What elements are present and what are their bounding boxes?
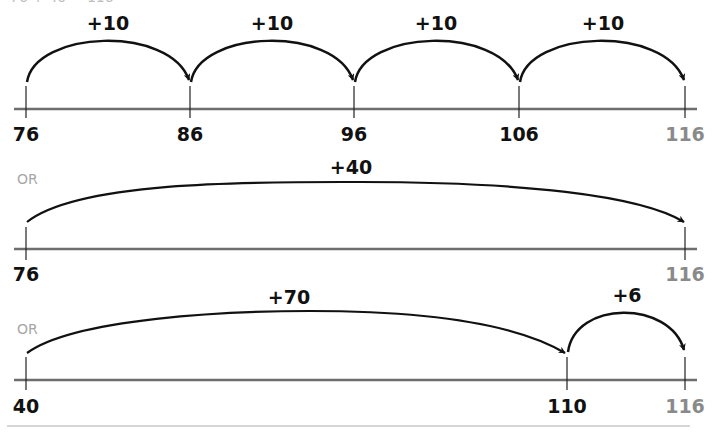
jump-arrow (355, 41, 518, 82)
jump-label: +10 (582, 12, 624, 34)
jump-arrow (568, 313, 684, 352)
cut-off-heading: 76 + 40 = 116 (10, 0, 114, 5)
jump-arrow (27, 311, 565, 353)
jump-label: +10 (415, 12, 457, 34)
tick-label: 40 (13, 395, 39, 417)
or-label: OR (17, 321, 38, 337)
jump-label: +6 (612, 284, 641, 306)
number-line-diagram: 76 + 40 = 116 +10 +10 +10 +10 76 86 96 1… (0, 0, 714, 432)
tick-label: 96 (341, 123, 367, 145)
tick-label-result: 116 (665, 395, 705, 417)
jump-label: +10 (87, 12, 129, 34)
tick-label: 76 (13, 263, 39, 285)
jump-label: +10 (251, 12, 293, 34)
jump-label: +70 (268, 286, 310, 308)
tick-label-result: 116 (665, 263, 705, 285)
tick-label: 86 (177, 123, 203, 145)
tick-label: 110 (547, 395, 587, 417)
tick-label: 106 (499, 123, 539, 145)
or-label: OR (17, 171, 38, 187)
tick-label: 76 (13, 123, 39, 145)
jump-arrow (191, 41, 353, 82)
jump-arrow (27, 41, 189, 82)
number-line-2: OR +40 76 116 (13, 156, 705, 285)
jump-label: +40 (330, 156, 372, 178)
number-line-3: OR +70 +6 40 110 116 (13, 284, 705, 417)
number-line-1: +10 +10 +10 +10 76 86 96 106 116 (13, 12, 705, 145)
tick-label-result: 116 (665, 123, 705, 145)
jump-arrow (520, 41, 684, 82)
jump-arrow (27, 182, 684, 222)
